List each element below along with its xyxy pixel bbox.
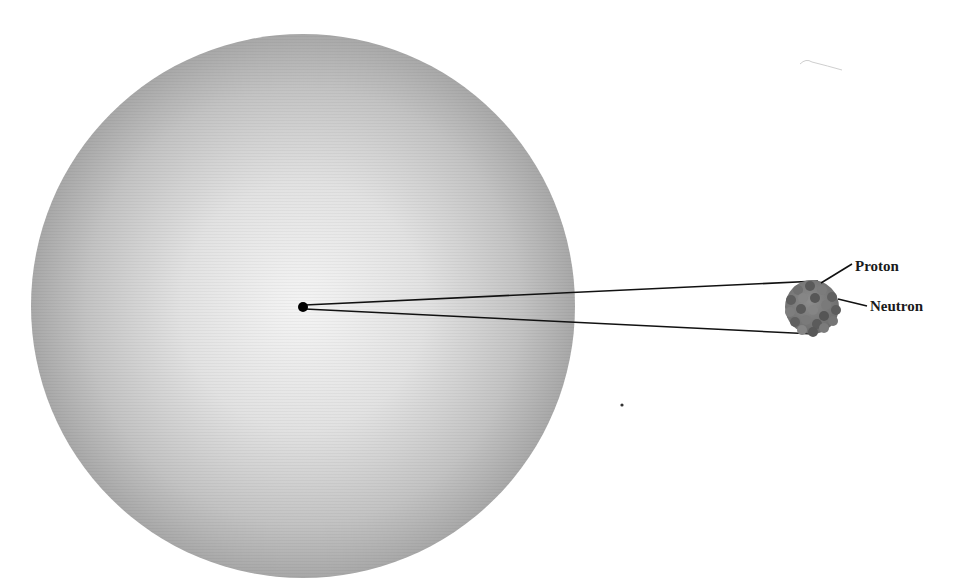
neutron-leader-line	[838, 299, 867, 306]
nucleon-particles	[785, 281, 841, 337]
proton-leader-line	[821, 264, 852, 283]
magnified-nucleus	[785, 280, 841, 337]
atom-diagram	[0, 0, 964, 580]
scan-artifact-dot	[620, 403, 623, 406]
proton-label: Proton	[855, 259, 899, 274]
nucleus-dot	[298, 302, 308, 312]
scan-artifact-mark	[800, 60, 842, 70]
neutron-label: Neutron	[870, 299, 923, 314]
